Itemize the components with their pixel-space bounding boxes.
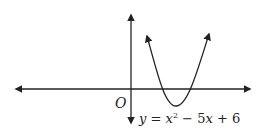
diagram-canvas: O y = x2 − 5x + 6 bbox=[0, 0, 266, 131]
origin-label: O bbox=[115, 95, 126, 111]
equation-label: y = x2 − 5x + 6 bbox=[139, 111, 240, 126]
parabola-curve bbox=[147, 34, 209, 106]
